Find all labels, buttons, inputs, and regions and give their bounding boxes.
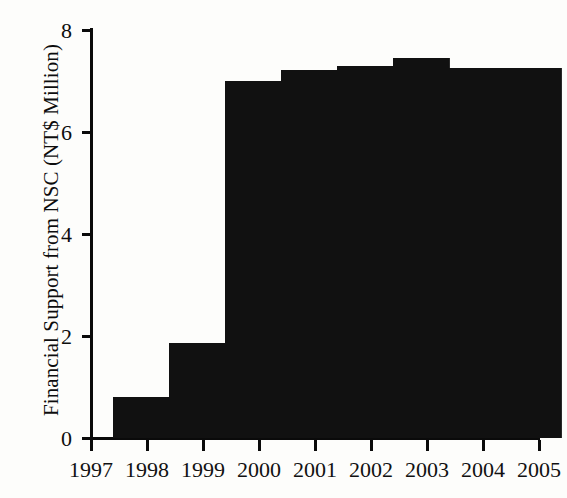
- bar-chart-figure: Financial Support from NSC (NT$ Million)…: [0, 0, 567, 498]
- x-axis-tick: [202, 440, 205, 451]
- x-axis-tick: [370, 440, 373, 451]
- x-axis-tick-label: 2005: [504, 459, 567, 481]
- bar: [113, 397, 170, 438]
- bar: [449, 68, 506, 438]
- bar: [281, 70, 338, 438]
- bar: [169, 343, 226, 438]
- y-axis-tick-label: 8: [61, 19, 72, 41]
- x-axis-tick: [426, 440, 429, 451]
- x-axis-tick: [258, 440, 261, 451]
- y-axis-tick-label: 2: [61, 325, 72, 347]
- x-axis-tick: [314, 440, 317, 451]
- bar: [337, 66, 394, 438]
- x-axis-tick: [146, 440, 149, 451]
- y-axis-tick-label: 4: [61, 223, 72, 245]
- x-axis-tick: [482, 440, 485, 451]
- bar: [225, 81, 282, 438]
- x-axis-tick: [90, 440, 93, 451]
- bar: [393, 58, 450, 438]
- y-axis-tick-label: 0: [61, 427, 72, 449]
- bar: [505, 68, 562, 438]
- plot-area: [90, 30, 538, 438]
- x-axis-tick: [538, 440, 541, 451]
- y-axis-tick-label: 6: [61, 121, 72, 143]
